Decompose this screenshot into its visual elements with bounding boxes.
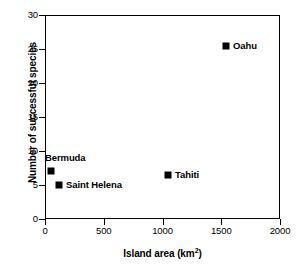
y-tick-mark-15 <box>39 117 45 118</box>
y-tick-mark-30 <box>39 15 45 16</box>
x-tick-label-500: 500 <box>96 226 112 236</box>
y-tick-label-0: 0 <box>33 214 38 224</box>
y-tick-mark-20 <box>39 83 45 84</box>
x-tick-label-0: 0 <box>42 226 47 236</box>
x-tick-label-2000: 2000 <box>270 226 291 236</box>
data-point-bermuda <box>48 168 55 175</box>
x-tick-label-1000: 1000 <box>152 226 173 236</box>
data-label-bermuda: Bermuda <box>45 153 85 163</box>
data-point-saint-helena <box>56 182 63 189</box>
y-tick-label-30: 30 <box>28 10 38 20</box>
y-tick-mark-5 <box>39 185 45 186</box>
x-axis-title: Island area (km2) <box>45 248 280 259</box>
x-axis-title-suffix: ) <box>198 248 201 259</box>
x-axis-title-base: Island area (km <box>123 248 194 259</box>
x-tick-label-1500: 1500 <box>211 226 232 236</box>
data-point-tahiti <box>164 171 171 178</box>
data-label-oahu: Oahu <box>233 41 257 51</box>
y-tick-mark-25 <box>39 49 45 50</box>
y-axis-title: Number of successful species <box>27 23 38 203</box>
data-point-oahu <box>223 42 230 49</box>
data-label-tahiti: Tahiti <box>175 170 199 180</box>
data-label-saint-helena: Saint Helena <box>66 180 122 190</box>
scatter-plot-figure: 0 5 10 15 20 25 30 0 500 1000 1500 2000 … <box>0 0 298 270</box>
